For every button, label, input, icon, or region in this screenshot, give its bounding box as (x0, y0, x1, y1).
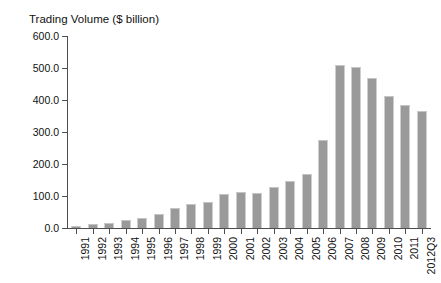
x-axis-tick (109, 229, 110, 234)
x-axis-tick (372, 229, 373, 234)
bar (318, 140, 328, 228)
x-axis-tick (142, 229, 143, 234)
y-axis-tick-label: 400.0 (33, 95, 59, 106)
x-axis-tick (389, 229, 390, 234)
y-axis-tick-label: 300.0 (33, 127, 59, 138)
bar (367, 78, 377, 228)
x-axis-line (67, 228, 431, 229)
x-axis-tick (159, 229, 160, 234)
bar (71, 226, 81, 228)
x-axis-tick (405, 229, 406, 234)
y-axis-tick-label: 200.0 (33, 159, 59, 170)
x-axis-tick (76, 229, 77, 234)
bar (351, 67, 361, 228)
bar (104, 223, 114, 228)
x-axis-tick (257, 229, 258, 234)
bar (121, 220, 131, 228)
x-axis-tick-label: 2012Q3 (426, 237, 437, 274)
x-axis-tick-label: 1993 (113, 237, 124, 260)
x-axis-tick (422, 229, 423, 234)
x-axis-tick-label: 2002 (261, 237, 272, 260)
x-axis-tick-label: 1991 (80, 237, 91, 260)
x-axis-tick (307, 229, 308, 234)
bar (302, 174, 312, 228)
plot-area (68, 36, 430, 228)
x-axis-tick-label: 1995 (146, 237, 157, 260)
x-axis-tick (274, 229, 275, 234)
x-axis-tick (241, 229, 242, 234)
x-axis-tick-label: 2001 (245, 237, 256, 260)
x-axis-tick-label: 2004 (294, 237, 305, 260)
x-axis-tick (93, 229, 94, 234)
x-axis-tick (290, 229, 291, 234)
bar (400, 105, 410, 228)
y-axis-tick-label: 500.0 (33, 63, 59, 74)
x-axis-tick-label: 1998 (195, 237, 206, 260)
x-axis-tick-label: 2009 (376, 237, 387, 260)
x-axis-tick-label: 1999 (212, 237, 223, 260)
y-axis-tick-label: 600.0 (33, 31, 59, 42)
x-axis-tick-label: 2006 (327, 237, 338, 260)
x-axis-tick-label: 2011 (409, 237, 420, 260)
x-axis-tick-label: 1996 (163, 237, 174, 260)
x-axis-tick-label: 2003 (278, 237, 289, 260)
bar (285, 181, 295, 228)
x-axis-tick-label: 1994 (130, 237, 141, 260)
x-axis-tick-label: 2005 (311, 237, 322, 260)
x-axis-tick (356, 229, 357, 234)
y-axis-tick (62, 228, 68, 229)
x-axis-tick (224, 229, 225, 234)
bar (137, 218, 147, 228)
bar-chart: Trading Volume ($ billion) 0.0100.0200.0… (0, 0, 441, 283)
bar (154, 214, 164, 228)
bar (170, 208, 180, 228)
x-axis-tick-label: 2010 (393, 237, 404, 260)
chart-title: Trading Volume ($ billion) (29, 13, 159, 26)
bar (203, 202, 213, 228)
bar (219, 194, 229, 228)
bar (384, 96, 394, 228)
bar (236, 192, 246, 228)
bar (335, 65, 345, 228)
x-axis-tick-label: 1997 (179, 237, 190, 260)
x-axis-tick (323, 229, 324, 234)
x-axis-tick (340, 229, 341, 234)
x-axis-tick (126, 229, 127, 234)
bar (252, 193, 262, 228)
bar (186, 204, 196, 228)
x-axis-tick (208, 229, 209, 234)
x-axis-tick (191, 229, 192, 234)
x-axis-tick-label: 2000 (228, 237, 239, 260)
x-axis-tick-label: 2007 (344, 237, 355, 260)
y-axis-tick-label: 0.0 (44, 223, 59, 234)
x-axis-tick-label: 2008 (360, 237, 371, 260)
x-axis-tick-label: 1992 (97, 237, 108, 260)
bar (417, 111, 427, 228)
bar (88, 224, 98, 228)
y-axis-tick-label: 100.0 (33, 191, 59, 202)
x-axis-tick (175, 229, 176, 234)
bar (269, 187, 279, 228)
